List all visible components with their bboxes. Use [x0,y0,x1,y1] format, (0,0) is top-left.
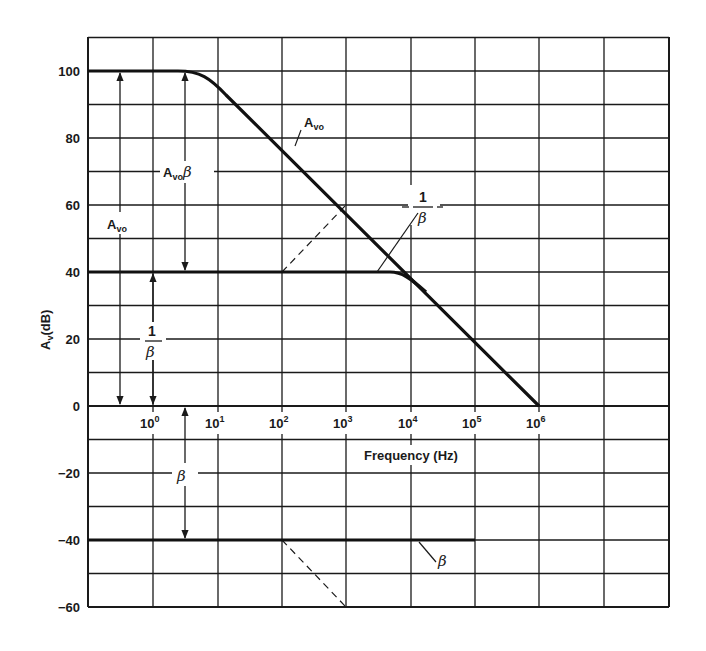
svg-text:40: 40 [66,265,80,280]
avo-beta-dimension-arrow: Avoβ [163,73,192,270]
inverse-beta-numerator: 1 [148,323,156,339]
y-axis-title: Av(dB) [38,310,55,350]
beta-dimension-label: β [176,467,186,485]
svg-text:β: β [417,209,427,227]
y-axis-ticks: 100 80 60 40 20 0 −20 −40 −60 [58,64,80,615]
svg-text:60: 60 [66,198,80,213]
inverse-beta-denominator: β [145,343,155,361]
svg-text:80: 80 [66,131,80,146]
svg-text:−40: −40 [58,533,80,548]
grid [88,37,669,607]
svg-text:0: 0 [73,399,80,414]
svg-text:100: 100 [58,64,80,79]
svg-text:−60: −60 [58,600,80,615]
inverse-beta-curve [88,272,426,292]
x-axis-title: Frequency (Hz) [364,448,458,463]
beta-curve-label: β [419,542,447,570]
svg-text:1: 1 [419,189,427,205]
svg-text:20: 20 [66,332,80,347]
svg-text:−20: −20 [58,466,80,481]
svg-text:β: β [437,552,447,570]
bode-plot: Avo Avoβ 1 β β Avo 1 β β 100 80 60 [0,0,706,651]
